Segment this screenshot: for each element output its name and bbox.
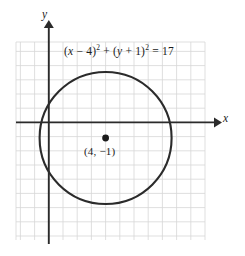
- x-axis-arrow: [214, 117, 222, 127]
- circle-graph-figure: (x − 4)2 + (y + 1)2 = 17 (4, −1) y x: [0, 0, 245, 256]
- y-axis-arrow: [44, 20, 54, 28]
- y-axis: [44, 20, 54, 244]
- graph-canvas: [0, 0, 245, 256]
- center-point-dot: [102, 135, 109, 142]
